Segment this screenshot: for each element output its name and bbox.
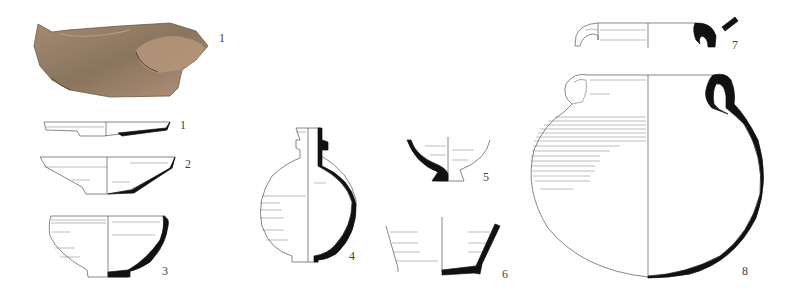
figure-label-8: 8	[742, 265, 748, 277]
profile-4-drawing	[260, 128, 356, 262]
figure-label-7: 7	[732, 39, 738, 51]
profile-3-drawing	[49, 216, 168, 277]
figure-label-1: 1	[180, 119, 186, 131]
figure-label-3: 3	[162, 265, 168, 277]
figure-label-photo-1: 1	[219, 32, 225, 44]
profile-8-drawing	[531, 74, 764, 278]
profile-2-drawing	[40, 157, 175, 194]
figure-label-2: 2	[185, 158, 191, 170]
profile-6-drawing	[386, 217, 500, 275]
profile-5-drawing	[407, 137, 490, 181]
pottery-plate	[0, 0, 798, 295]
figure-label-6: 6	[502, 268, 508, 280]
profile-1-drawing	[44, 122, 170, 136]
profile-7-drawing	[575, 17, 738, 48]
figure-label-5: 5	[483, 171, 489, 183]
figure-label-4: 4	[349, 250, 355, 262]
sherd-photo	[34, 23, 208, 97]
